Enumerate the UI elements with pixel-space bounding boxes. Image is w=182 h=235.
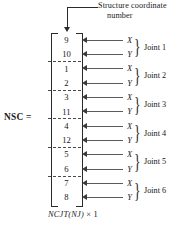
matrix-entry-row: 6 [51, 162, 82, 176]
arrow-row [82, 148, 124, 162]
caption-dims: NCJT(NJ) [48, 210, 84, 219]
arrow-shaft [87, 111, 123, 112]
matrix-entry-value: 8 [64, 193, 68, 202]
matrix-entry-row: 1 [51, 62, 82, 76]
matrix-name-label: NSC = [4, 112, 31, 122]
matrix-entry-row: 3 [51, 90, 82, 104]
matrix-entry-value: 1 [64, 65, 68, 74]
matrix-entry-row: 5 [51, 148, 82, 162]
arrow-shaft [87, 54, 123, 55]
arrow-row [82, 133, 124, 147]
matrix-entry-row: 11 [51, 105, 82, 119]
arrow-row [82, 76, 124, 90]
arrow-row [82, 33, 124, 47]
joint-group: }Joint 6 [134, 176, 182, 205]
arrow-row [82, 47, 124, 61]
curly-brace-icon: } [134, 180, 141, 201]
arrow-row [82, 62, 124, 76]
nsc-vector-figure: Structure coordinate number NSC = 910123… [0, 0, 182, 235]
arrow-shaft [87, 154, 123, 155]
curly-brace-icon: } [134, 37, 141, 58]
arrow-shaft [87, 40, 123, 41]
arrow-shaft [87, 83, 123, 84]
arrow-row [82, 176, 124, 190]
arrow-shaft [87, 126, 123, 127]
curly-brace-icon: } [134, 65, 141, 86]
leader-line-vertical [67, 7, 68, 29]
arrow-shaft [87, 140, 123, 141]
matrix-entry-value: 3 [64, 93, 68, 102]
callout-label: Structure coordinate number [98, 1, 182, 21]
dimension-caption: NCJT(NJ) × 1 [48, 210, 98, 219]
curly-brace-icon: } [134, 151, 141, 172]
joint-label: Joint 1 [144, 43, 166, 52]
matrix-entry-value: 11 [62, 108, 70, 117]
arrow-row [82, 90, 124, 104]
arrow-shaft [87, 169, 123, 170]
arrow-row [82, 191, 124, 205]
leader-line-horizontal [68, 7, 98, 8]
matrix-entry-row: 7 [51, 176, 82, 190]
joint-group: }Joint 3 [134, 90, 182, 119]
matrix-entry-value: 12 [62, 136, 71, 145]
joint-group-column: }Joint 1}Joint 2}Joint 3}Joint 4}Joint 5… [134, 33, 182, 205]
joint-label: Joint 6 [144, 186, 166, 195]
joint-group: }Joint 4 [134, 119, 182, 148]
joint-group: }Joint 2 [134, 62, 182, 91]
matrix-entry-value: 5 [64, 150, 68, 159]
joint-label: Joint 3 [144, 100, 166, 109]
matrix-entries-column: 910123114125678 [51, 33, 82, 205]
matrix-entry-value: 6 [64, 165, 68, 174]
curly-brace-icon: } [134, 94, 141, 115]
matrix-entry-value: 9 [64, 36, 68, 45]
arrow-shaft [87, 197, 123, 198]
matrix-entry-value: 2 [64, 79, 68, 88]
matrix-entry-row: 2 [51, 76, 82, 90]
arrow-shaft [87, 183, 123, 184]
arrow-shaft [87, 97, 123, 98]
matrix-entry-value: 7 [64, 179, 68, 188]
leader-arrowhead-icon [64, 27, 70, 32]
matrix-entry-row: 12 [51, 133, 82, 147]
caption-times: × 1 [86, 210, 98, 219]
matrix-entry-row: 4 [51, 119, 82, 133]
arrow-row [82, 105, 124, 119]
matrix-entry-value: 10 [62, 50, 71, 59]
joint-label: Joint 2 [144, 71, 166, 80]
matrix-entry-value: 4 [64, 122, 68, 131]
joint-group: }Joint 1 [134, 33, 182, 62]
callout-line-2: number [98, 11, 182, 21]
callout-line-1: Structure coordinate [98, 1, 167, 10]
curly-brace-icon: } [134, 123, 141, 144]
arrow-column [82, 33, 124, 205]
matrix-entry-row: 9 [51, 33, 82, 47]
joint-group: }Joint 5 [134, 148, 182, 177]
joint-label: Joint 4 [144, 129, 166, 138]
matrix-entry-row: 8 [51, 191, 82, 205]
arrow-row [82, 119, 124, 133]
arrow-shaft [87, 68, 123, 69]
matrix-entry-row: 10 [51, 47, 82, 61]
joint-label: Joint 5 [144, 157, 166, 166]
arrow-row [82, 162, 124, 176]
